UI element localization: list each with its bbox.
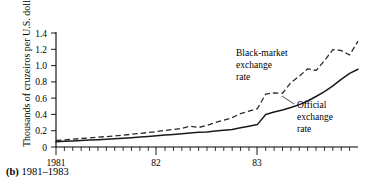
y-axis-tick-labels: 1.4 1.2 1.0 0.8 0.6 0.4 0.2 0 [35,29,47,153]
y-axis-ticks [51,33,56,147]
annotation-line: rate [236,72,250,82]
x-axis-tick-labels: 1981 82 83 [47,158,263,168]
x-axis-major-ticks [56,147,257,155]
annotation-leader-official [282,96,294,104]
annotation-official: Official exchange rate [297,100,333,134]
y-tick-label: 0.6 [35,94,47,104]
annotation-line: Official [297,100,327,110]
y-tick-label: 1.2 [35,45,47,55]
figure-container: Thousands of cruzeiros per U.S. dollar 1… [0,0,365,188]
y-tick-label: 0 [42,143,47,153]
y-tick-label: 0.8 [35,77,47,87]
x-axis-minor-ticks [64,147,349,151]
y-tick-label: 1.0 [35,61,47,71]
caption-marker: (b) [6,166,19,177]
annotation-line: Black-market [236,48,288,58]
figure-caption: (b) 1981–1983 [6,166,69,177]
caption-text: 1981–1983 [19,166,69,177]
annotation-line: rate [297,124,311,134]
annotation-line: exchange [236,60,272,70]
y-tick-label: 0.4 [35,110,47,120]
series-line-black-market [56,41,358,140]
y-axis-title: Thousands of cruzeiros per U.S. dollar [21,0,32,147]
y-tick-label: 0.2 [35,126,47,136]
x-tick-label: 82 [151,158,161,168]
annotation-line: exchange [297,112,333,122]
annotation-black-market: Black-market exchange rate [236,48,288,82]
y-tick-label: 1.4 [35,29,47,39]
exchange-rate-line-chart: Thousands of cruzeiros per U.S. dollar 1… [0,0,365,188]
x-tick-label: 83 [252,158,262,168]
